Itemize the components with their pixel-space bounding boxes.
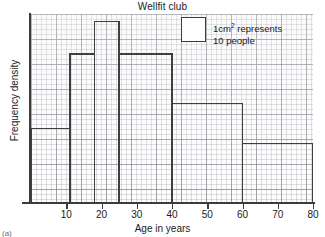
legend-line2: 10 people	[213, 35, 255, 46]
legend-key: 1cm2 represents 10 people	[181, 17, 282, 46]
histogram-figure: Wellfit club 1020304050607080 Age in yea…	[0, 0, 325, 237]
chart-title: Wellfit club	[0, 1, 325, 12]
y-axis-label: Frequency density	[9, 31, 20, 171]
part-label: (a)	[2, 229, 12, 237]
legend-area-swatch	[181, 17, 206, 42]
x-tick-label-10: 10	[53, 209, 79, 220]
legend-text: 1cm2 represents 10 people	[213, 17, 282, 46]
legend-line1-suffix: represents	[235, 23, 283, 34]
x-axis-label: Age in years	[0, 223, 325, 234]
y-axis-line	[29, 13, 31, 204]
x-tick-label-80: 80	[300, 209, 325, 220]
x-tick-label-40: 40	[159, 209, 185, 220]
x-tick-label-20: 20	[89, 209, 115, 220]
x-tick-label-60: 60	[230, 209, 256, 220]
x-tick-label-50: 50	[194, 209, 220, 220]
legend-line1-prefix: 1cm	[213, 23, 231, 34]
x-tick-label-70: 70	[265, 209, 291, 220]
x-tick-label-30: 30	[124, 209, 150, 220]
